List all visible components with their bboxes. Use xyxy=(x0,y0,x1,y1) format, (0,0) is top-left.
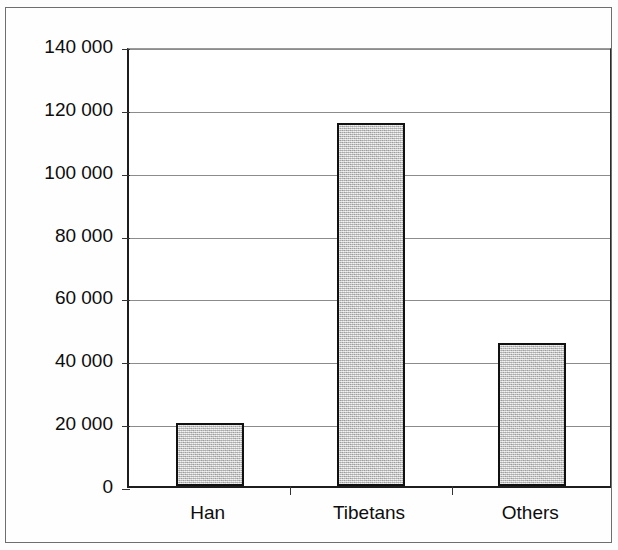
y-axis-tick xyxy=(122,49,130,50)
y-axis-tick xyxy=(122,300,130,301)
bar-han xyxy=(176,423,244,486)
y-axis-tick-label: 40 000 xyxy=(55,350,113,372)
y-axis-tick-label: 60 000 xyxy=(55,287,113,309)
y-axis-tick-label: 80 000 xyxy=(55,225,113,247)
y-axis-tick-label: 140 000 xyxy=(44,36,113,58)
y-axis-tick-label: 0 xyxy=(102,476,113,498)
y-axis-tick-label: 100 000 xyxy=(44,162,113,184)
y-axis-tick-label: 20 000 xyxy=(55,413,113,435)
y-axis-tick xyxy=(122,489,130,490)
bar-chart-figure: 020 00040 00060 00080 000100 000120 0001… xyxy=(0,0,618,550)
x-axis-label-tibetans: Tibetans xyxy=(333,502,405,524)
y-axis-tick xyxy=(122,426,130,427)
x-axis-label-others: Others xyxy=(502,502,559,524)
y-axis-tick xyxy=(122,238,130,239)
figure-frame-border: 020 00040 00060 00080 000100 000120 0001… xyxy=(5,7,612,543)
y-axis-tick-label: 120 000 xyxy=(44,99,113,121)
x-axis-tick xyxy=(452,486,453,495)
y-axis-tick xyxy=(122,112,130,113)
bar-tibetans xyxy=(337,123,405,486)
y-axis-tick xyxy=(122,363,130,364)
gridline xyxy=(129,112,610,113)
bar-others xyxy=(498,343,566,486)
plot-area xyxy=(127,48,611,488)
x-axis-tick xyxy=(290,486,291,495)
y-axis-tick xyxy=(122,175,130,176)
x-axis-label-han: Han xyxy=(190,502,225,524)
gridline xyxy=(129,49,610,50)
